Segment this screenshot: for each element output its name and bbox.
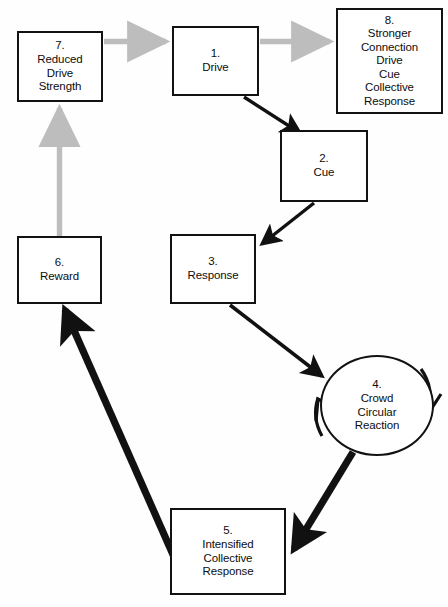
node-number: 2. [319,152,328,166]
edge-3-to-4 [230,305,322,376]
node-drive[interactable]: 1. Drive [172,26,259,96]
node-cue[interactable]: 2. Cue [280,130,368,202]
node-crowd-circular-reaction[interactable]: 4. Crowd Circular Reaction [320,355,434,456]
edge-5-to-6 [65,310,178,566]
node-label-line: Reduced [37,53,82,67]
node-number: 8. [385,14,394,28]
node-label-line: Cue [314,166,335,180]
node-label-line: Collective [204,552,253,566]
node-reduced-drive-strength[interactable]: 7. Reduced Drive Strength [17,31,103,102]
edge-1-to-2 [244,97,300,133]
node-label-line: Cue [379,68,400,82]
node-label-line: Strength [39,80,82,94]
node-number: 6. [55,256,64,270]
edge-4-to-5 [294,452,353,549]
node-label-line: Response [364,95,415,109]
node-label-line: Drive [376,54,402,68]
node-intensified-collective-response[interactable]: 5. Intensified Collective Response [170,508,286,595]
node-reward[interactable]: 6. Reward [17,236,102,304]
node-label-line: Circular [358,406,397,420]
node-label-line: Connection [361,41,418,55]
edge-2-to-3 [262,203,314,244]
node-stronger-connection[interactable]: 8. Stronger Connection Drive Cue Collect… [336,8,443,114]
node-number: 1. [211,47,220,61]
node-number: 4. [372,378,381,392]
node-label-line: Reaction [355,419,400,433]
node-number: 7. [55,39,64,53]
node-label-line: Collective [365,81,414,95]
node-label-line: Drive [47,67,73,81]
node-label-line: Response [188,269,239,283]
node-label-line: Reward [40,270,79,284]
node-label-line: Drive [202,61,228,75]
node-label-line: Intensified [202,538,253,552]
node-label-line: Response [203,565,254,579]
node-label-line: Crowd [361,392,394,406]
flowchart-diagram: 7. Reduced Drive Strength 1. Drive 8. St… [0,0,448,607]
node-number: 3. [208,255,217,269]
node-number: 5. [223,524,232,538]
node-label-line: Stronger [368,27,411,41]
node-response[interactable]: 3. Response [170,234,256,304]
